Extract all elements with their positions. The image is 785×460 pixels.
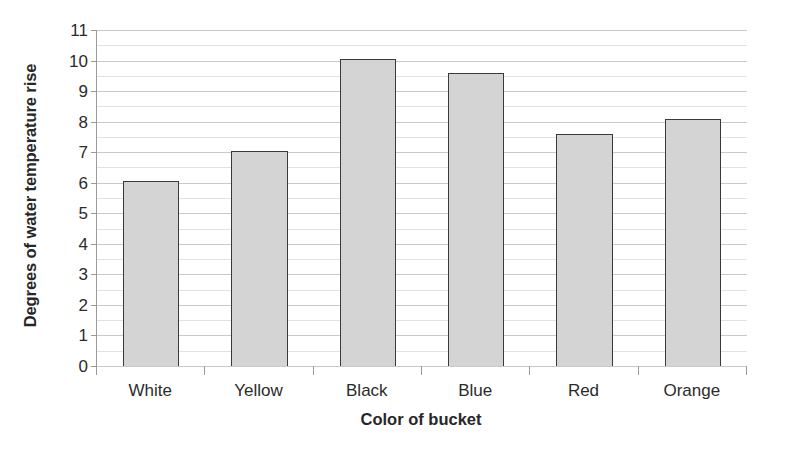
y-axis-tick-label: 10 xyxy=(69,52,88,69)
bar-slot xyxy=(530,30,638,366)
y-axis-tick-label: 5 xyxy=(79,205,88,222)
y-axis-title: Degrees of water temperature rise xyxy=(14,0,48,390)
bar-red[interactable] xyxy=(556,134,612,366)
y-axis-tick-label: 4 xyxy=(79,235,88,252)
y-axis-tick-label: 9 xyxy=(79,83,88,100)
y-axis-tick-label: 11 xyxy=(70,22,88,39)
x-axis-tick-label-orange: Orange xyxy=(638,377,746,407)
plot-area xyxy=(96,30,747,367)
x-axis-tick xyxy=(204,366,205,375)
x-axis-tick xyxy=(96,366,97,375)
y-axis-tick-label: 6 xyxy=(79,174,88,191)
bar-chart: Degrees of water temperature rise 012345… xyxy=(0,0,785,460)
x-axis-tick xyxy=(529,366,530,375)
bar-series xyxy=(97,30,747,366)
x-axis-tick xyxy=(746,366,747,375)
x-axis-tick-labels: WhiteYellowBlackBlueRedOrange xyxy=(96,377,746,407)
y-axis-tick-label: 0 xyxy=(79,358,88,375)
bar-slot xyxy=(97,30,205,366)
y-axis-tick-label: 8 xyxy=(79,113,88,130)
bar-blue[interactable] xyxy=(448,73,504,366)
bar-slot xyxy=(314,30,422,366)
x-axis-ticks xyxy=(96,366,746,375)
bar-slot xyxy=(639,30,747,366)
x-axis-tick xyxy=(421,366,422,375)
x-axis-tick-label-white: White xyxy=(96,377,204,407)
bar-black[interactable] xyxy=(340,59,396,366)
x-axis-tick-label-blue: Blue xyxy=(421,377,529,407)
y-axis-tick-label: 2 xyxy=(79,296,88,313)
bar-white[interactable] xyxy=(123,181,179,366)
y-axis-tick-label: 7 xyxy=(79,144,88,161)
x-axis-title: Color of bucket xyxy=(96,410,746,429)
y-axis-tick-label: 1 xyxy=(79,327,88,344)
x-axis-tick xyxy=(313,366,314,375)
x-axis-tick-label-yellow: Yellow xyxy=(204,377,312,407)
y-axis-tick-label: 3 xyxy=(79,266,88,283)
bar-slot xyxy=(205,30,313,366)
x-axis-tick-label-red: Red xyxy=(529,377,637,407)
x-axis-tick xyxy=(638,366,639,375)
bar-orange[interactable] xyxy=(665,119,721,366)
y-axis-title-text: Degrees of water temperature rise xyxy=(22,63,41,327)
bar-yellow[interactable] xyxy=(231,151,287,366)
y-axis-tick-labels: 01234567891011 xyxy=(52,30,94,366)
x-axis-tick-label-black: Black xyxy=(313,377,421,407)
bar-slot xyxy=(422,30,530,366)
